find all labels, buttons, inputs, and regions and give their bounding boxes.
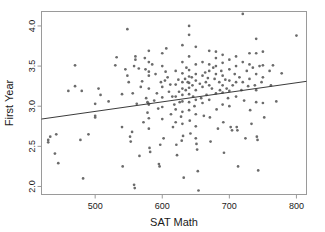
scatter-point [208,98,211,101]
scatter-point [181,100,184,103]
scatter-point [184,89,187,92]
y-tick-label: 3.0 [27,100,37,113]
scatter-point [175,143,178,146]
scatter-point [203,114,206,117]
scatter-point [201,102,204,105]
scatter-point [182,135,185,138]
scatter-point [208,63,211,66]
scatter-point [161,118,164,121]
scatter-point [262,50,265,53]
scatter-point [138,155,141,158]
scatter-point [188,101,191,104]
scatter-point [248,78,251,81]
scatter-point [231,84,234,87]
scatter-point [171,95,174,98]
scatter-point [218,81,221,84]
scatter-point [143,57,146,60]
scatter-point [147,70,150,73]
scatter-point [170,113,173,116]
scatter-point [228,105,231,108]
scatter-point [221,74,224,77]
scatter-point [178,90,181,93]
scatter-point [182,176,185,179]
scatter-point [172,126,175,129]
scatter-point [67,90,70,93]
scatter-point [137,67,140,70]
scatter-point [194,98,197,101]
scatter-point [257,169,260,172]
scatter-point [295,34,298,37]
scatter-point [244,137,247,140]
scatter-point [201,74,204,77]
scatter-point [263,116,266,119]
scatter-point [194,113,197,116]
scatter-point [204,71,207,74]
scatter-point [147,87,150,90]
scatter-point [181,61,184,64]
scatter-point [215,108,218,111]
scatter-point [241,61,244,64]
scatter-point [255,52,258,55]
scatter-point [255,101,258,104]
scatter-point [185,66,188,69]
scatter-point [47,139,50,142]
scatter-point [142,121,145,124]
x-tick-label: 800 [289,201,304,211]
scatter-point [181,87,184,90]
scatter-point [157,107,160,110]
scatter-point [146,111,149,114]
scatter-point [151,63,154,66]
x-tick-label: 700 [222,201,237,211]
scatter-point [161,65,164,68]
scatter-point [147,74,150,77]
scatter-point [144,68,147,71]
scatter-point [174,121,177,124]
scatter-point [190,76,193,79]
scatter-point [209,140,212,143]
scatter-point [197,189,200,192]
scatter-point [213,78,216,81]
scatter-point [215,65,218,68]
scatter-point [180,139,183,142]
scatter-point [253,84,256,87]
scatter-point [134,55,137,58]
x-axis-title: SAT Math [150,216,198,228]
scatter-point [223,151,226,154]
scatter-point [174,70,177,73]
scatter-point [194,137,197,140]
scatter-point [194,63,197,66]
scatter-point [256,139,259,142]
scatter-point [147,61,150,64]
x-tick-label: 500 [88,201,103,211]
scatter-point [181,123,184,126]
scatter-point [135,102,138,105]
scatter-point [245,70,248,73]
scatter-point [166,76,169,79]
scatter-point [196,170,199,173]
scatter-point [194,125,197,128]
scatter-point [121,165,124,168]
scatter-point [121,126,124,129]
scatter-point [129,135,132,138]
scatter-point [212,66,215,69]
scatter-point [94,114,97,117]
scatter-point [235,95,238,98]
chart-canvas: 500600700800 2.02.53.03.54.0 SAT Math Fi… [0,0,325,232]
scatter-point [229,126,232,129]
scatter-point [133,184,136,187]
y-tick-label: 2.5 [27,140,37,153]
scatter-point [262,76,265,79]
scatter-point [280,72,283,75]
scatter-point [188,86,191,89]
scatter-point [208,49,211,52]
y-tick-label: 2.0 [27,180,37,193]
scatter-point [189,132,192,135]
scatter-point [127,81,130,84]
scatter-point [194,89,197,92]
scatter-point [221,84,224,87]
scatter-point [156,92,159,95]
scatter-point [249,109,252,112]
scatter-point [235,65,238,68]
scatter-point [161,52,164,55]
scatter-point [193,105,196,108]
